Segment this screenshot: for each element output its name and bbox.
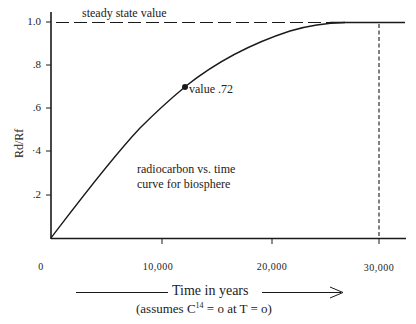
y-axis-label: Rd/Rf — [12, 129, 27, 158]
y-tick-0-2: .2 — [11, 188, 41, 200]
x-axis-title: Time in years — [172, 283, 248, 299]
y-tick-0-8: .8 — [11, 58, 41, 70]
x-tick-10000: 10,000 — [143, 261, 174, 272]
point-value-label: value .72 — [189, 82, 233, 97]
radiocarbon-curve — [51, 23, 345, 239]
x-tick-30000: 30,000 — [364, 262, 395, 273]
steady-state-label: steady state value — [82, 6, 167, 21]
x-tick-20000: 20,000 — [257, 261, 288, 272]
y-tick-1-0: 1.0 — [11, 15, 41, 27]
x-tick-0: 0 — [38, 261, 44, 272]
value-point-marker — [182, 84, 188, 90]
x-axis-note-sup: 14 — [196, 301, 204, 310]
x-axis-note: (assumes C14 = o at T = o) — [136, 301, 272, 317]
x-axis-note-post: = o at T = o) — [204, 301, 272, 316]
x-axis-note-pre: (assumes C — [136, 301, 196, 316]
curve-label-line2: curve for biosphere — [137, 177, 230, 192]
curve-label-line1: radiocarbon vs. time — [137, 162, 235, 177]
y-tick-0-6: .6 — [11, 101, 41, 113]
